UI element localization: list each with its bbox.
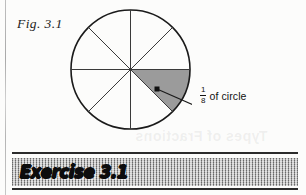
figure-label: Fig. 3.1 <box>17 16 63 32</box>
pie-circle-diagram <box>69 8 192 131</box>
fraction-one-eighth: 1 8 <box>200 86 206 105</box>
fraction-denominator: 8 <box>200 97 206 105</box>
exercise-banner: Exercise 3.1 <box>12 158 298 186</box>
callout-anchor-dot <box>155 87 160 92</box>
scanned-page: Fig. 3.1 Types of Fractions 1 8 of circl… <box>0 0 306 195</box>
fraction-callout: 1 8 of circle <box>200 86 247 105</box>
exercise-banner-title: Exercise 3.1 <box>20 162 128 182</box>
page-margin-rule <box>5 0 6 195</box>
banner-rule-bottom <box>12 188 298 190</box>
callout-text: of circle <box>209 90 246 102</box>
banner-rule-top <box>12 152 298 154</box>
fraction-numerator: 1 <box>200 86 206 94</box>
circle-svg <box>69 8 192 131</box>
